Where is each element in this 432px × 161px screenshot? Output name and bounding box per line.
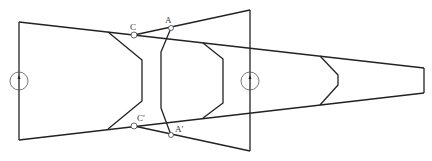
- channel-bottom-line: [19, 93, 424, 140]
- optical-diagram: [0, 0, 432, 161]
- label-A-prime: A′: [175, 125, 183, 134]
- left-trapezoid-channel: [19, 22, 424, 140]
- right-hexagon-lens: [320, 56, 338, 105]
- point-A-marker: [169, 26, 174, 31]
- middle-hexagon-lens: [203, 43, 223, 118]
- point-C-marker: [131, 32, 137, 38]
- label-A: A: [165, 16, 172, 25]
- middle-trapezoid: [134, 10, 250, 151]
- label-C-prime: C′: [137, 114, 145, 123]
- curved-lens-through-A: [161, 28, 171, 135]
- middle-top-line: [134, 10, 250, 35]
- middle-bottom-line: [134, 126, 250, 151]
- label-C: C: [130, 23, 136, 32]
- point-C-prime-marker: [131, 123, 137, 129]
- arrow-up-icon: [18, 75, 21, 79]
- arrow-up-icon: [249, 75, 252, 79]
- point-A-prime-marker: [169, 133, 174, 138]
- channel-top-line: [19, 22, 424, 68]
